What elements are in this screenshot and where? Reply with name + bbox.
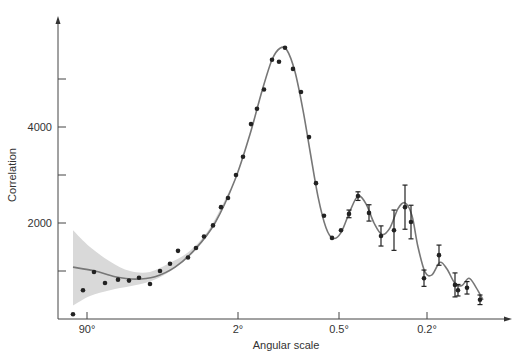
data-point bbox=[291, 67, 296, 72]
data-point bbox=[339, 228, 344, 233]
data-point bbox=[202, 234, 207, 239]
x-tick-label: 0.2° bbox=[417, 323, 437, 335]
data-point bbox=[409, 220, 414, 225]
x-axis-arrow-icon bbox=[504, 317, 512, 322]
data-point bbox=[456, 288, 461, 293]
data-point bbox=[379, 234, 384, 239]
data-point bbox=[356, 194, 361, 199]
chart: 20004000 90°2°0.5°0.2° Angular scale Cor… bbox=[0, 0, 525, 360]
data-point bbox=[299, 90, 304, 95]
data-point bbox=[270, 58, 275, 63]
data-point bbox=[219, 205, 224, 210]
x-tick-label: 90° bbox=[79, 323, 96, 335]
data-point bbox=[81, 288, 86, 293]
data-point bbox=[478, 298, 483, 303]
data-point bbox=[186, 255, 191, 260]
data-point bbox=[453, 283, 458, 288]
data-point bbox=[437, 253, 442, 258]
data-point bbox=[71, 312, 76, 317]
data-point bbox=[234, 173, 239, 178]
data-point bbox=[249, 122, 254, 127]
data-point bbox=[330, 236, 335, 241]
data-point bbox=[158, 269, 163, 274]
data-point bbox=[127, 278, 132, 283]
x-axis-title: Angular scale bbox=[253, 339, 320, 351]
data-point bbox=[422, 276, 427, 281]
data-point bbox=[367, 211, 372, 216]
y-axis-title: Correlation bbox=[6, 148, 18, 202]
data-point bbox=[103, 281, 108, 286]
data-point bbox=[403, 205, 408, 210]
y-tick-label: 4000 bbox=[28, 121, 52, 133]
data-point bbox=[255, 106, 260, 111]
x-tick-label: 2° bbox=[233, 323, 244, 335]
y-axis: 20004000 bbox=[28, 16, 66, 319]
data-point bbox=[92, 270, 97, 275]
confidence-band bbox=[73, 189, 230, 305]
data-point bbox=[314, 181, 319, 186]
data-point bbox=[168, 262, 173, 267]
data-point bbox=[307, 135, 312, 140]
data-point bbox=[226, 196, 231, 201]
data-point bbox=[148, 282, 153, 287]
y-axis-arrow-icon bbox=[56, 16, 61, 24]
data-point bbox=[283, 46, 288, 51]
data-point bbox=[262, 87, 267, 92]
x-axis: 90°2°0.5°0.2° bbox=[58, 312, 512, 335]
fit-curve bbox=[73, 47, 483, 300]
error-bars bbox=[347, 185, 483, 305]
data-point bbox=[322, 214, 327, 219]
data-point bbox=[176, 249, 181, 254]
data-point bbox=[241, 154, 246, 159]
data-point bbox=[194, 246, 199, 251]
data-point bbox=[392, 228, 397, 233]
data-point bbox=[137, 275, 142, 280]
y-tick-label: 2000 bbox=[28, 217, 52, 229]
data-point bbox=[277, 59, 282, 64]
data-point bbox=[465, 286, 470, 291]
data-point bbox=[211, 223, 216, 228]
data-point bbox=[347, 212, 352, 217]
data-point bbox=[116, 277, 121, 282]
x-tick-label: 0.5° bbox=[329, 323, 349, 335]
